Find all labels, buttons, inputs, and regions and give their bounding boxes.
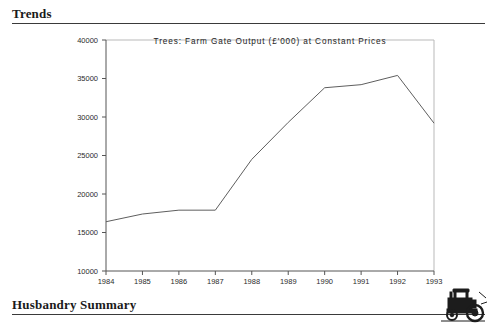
x-axis-ticks: 1984198519861987198819891990199119921993 xyxy=(98,271,443,285)
trends-divider xyxy=(12,23,485,24)
x-tick-label: 1985 xyxy=(134,277,151,285)
y-tick-label: 30000 xyxy=(77,113,98,122)
chart-axes xyxy=(106,40,434,271)
trends-chart: 10000150002000025000300003500040000 1984… xyxy=(0,30,495,285)
chart-title: Trees: Farm Gate Output (£'000) at Const… xyxy=(154,37,387,46)
husbandry-title: Husbandry Summary xyxy=(0,297,495,312)
x-tick-label: 1992 xyxy=(389,277,406,285)
y-tick-label: 40000 xyxy=(77,36,98,45)
chart-frame xyxy=(106,40,434,271)
x-tick-label: 1989 xyxy=(280,277,297,285)
x-tick-label: 1986 xyxy=(171,277,188,285)
y-tick-label: 25000 xyxy=(77,151,98,160)
x-tick-label: 1993 xyxy=(426,277,443,285)
series-line-trees-output xyxy=(106,75,434,221)
y-tick-label: 15000 xyxy=(77,228,98,237)
husbandry-section-header: Husbandry Summary xyxy=(0,297,495,315)
x-tick-label: 1987 xyxy=(207,277,224,285)
trends-section-header: Trends xyxy=(0,6,495,24)
y-axis-ticks: 10000150002000025000300003500040000 xyxy=(77,36,106,276)
x-tick-label: 1984 xyxy=(98,277,115,285)
x-tick-label: 1990 xyxy=(316,277,333,285)
x-tick-label: 1991 xyxy=(353,277,370,285)
x-tick-label: 1988 xyxy=(243,277,260,285)
trends-title: Trends xyxy=(0,6,495,21)
tractor-icon xyxy=(439,286,489,324)
y-tick-label: 35000 xyxy=(77,74,98,83)
y-tick-label: 10000 xyxy=(77,267,98,276)
y-tick-label: 20000 xyxy=(77,190,98,199)
husbandry-divider xyxy=(12,314,485,315)
